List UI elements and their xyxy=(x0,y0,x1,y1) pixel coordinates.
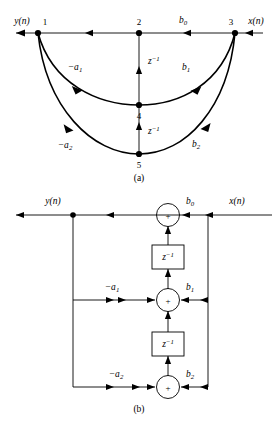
bd-arrow-chain-mid-upper xyxy=(165,269,171,277)
sfg-delay-lower-label: z−1 xyxy=(147,125,160,136)
adder-middle-plus: + xyxy=(165,296,170,306)
sfg-gain-a2-sub: 2 xyxy=(69,144,73,151)
sfg-delay-lower-exp: −1 xyxy=(152,125,160,132)
sfg-node-5-label: 5 xyxy=(137,160,142,170)
sfg-gain-a2-base: −a xyxy=(58,140,69,150)
figure-svg: 1 2 3 4 5 y(n) x(n) b0 −a1 −a2 b1 xyxy=(0,0,279,426)
bd-arrow-a1-into-adder xyxy=(147,297,155,303)
bd-arrow-b1-mid xyxy=(200,297,208,303)
bd-gain-b0-sub: 0 xyxy=(191,200,195,207)
caption-b: (b) xyxy=(133,404,144,415)
figure-container: 1 2 3 4 5 y(n) x(n) b0 −a1 −a2 b1 xyxy=(0,0,279,426)
sfg-input-label: x(n) xyxy=(247,16,263,27)
delay-block-2-label: z−1 xyxy=(161,338,174,349)
bd-gain-b1-label: b1 xyxy=(186,282,194,293)
bd-arrow-chain-mid-lower xyxy=(165,311,171,319)
sfg-gain-b2-label: b2 xyxy=(192,139,201,150)
bd-arrow-b1-into-adder xyxy=(181,297,189,303)
sfg-curve-a1 xyxy=(38,33,139,105)
bd-arrow-a2-right xyxy=(132,384,140,390)
sfg-node-4-dot xyxy=(136,102,142,108)
sfg-node-1-label: 1 xyxy=(43,17,48,27)
sfg-delay-upper-label: z−1 xyxy=(147,55,160,66)
bd-gain-b2-sub: 2 xyxy=(191,373,195,380)
bd-arrow-b0-mid xyxy=(205,212,213,218)
bd-gain-b2-label: b2 xyxy=(186,369,195,380)
adder-bottom-plus: + xyxy=(165,383,170,393)
delay-block-1-exp: −1 xyxy=(166,251,174,258)
sfg-arrow-node2-to-node1 xyxy=(85,30,93,36)
sfg-node-3-label: 3 xyxy=(229,17,234,27)
sfg-node-3-dot xyxy=(232,30,238,36)
sfg-node-2-dot xyxy=(136,30,142,36)
sfg-gain-b1-label: b1 xyxy=(182,62,190,73)
bd-output-label: y(n) xyxy=(44,196,60,207)
bd-arrow-b2-into-adder xyxy=(181,384,189,390)
sfg-arrow-input-right xyxy=(245,30,253,36)
sfg-gain-a1-sub: 1 xyxy=(79,66,82,73)
delay-block-1-label: z−1 xyxy=(161,251,174,262)
sfg-gain-b1-sub: 1 xyxy=(187,66,190,73)
bd-arrow-b2-mid xyxy=(200,384,208,390)
sfg-arrow-output-left xyxy=(16,30,25,37)
bd-input-label: x(n) xyxy=(228,196,244,207)
sfg-node-4-label: 4 xyxy=(137,111,142,121)
sfg-arrow-b1 xyxy=(191,86,202,94)
adder-top-plus: + xyxy=(165,211,170,221)
bd-arrow-chain-upper xyxy=(165,226,171,234)
sfg-arrow-delay-upper xyxy=(136,66,142,74)
bd-gain-a1-label: −a1 xyxy=(105,282,120,293)
bd-gain-a1-sub: 1 xyxy=(116,286,119,293)
bd-gain-a2-label: −a2 xyxy=(109,369,124,380)
sfg-arrow-b0 xyxy=(183,30,191,36)
bd-arrow-b0-into-adder xyxy=(182,212,190,218)
bd-arrow-a1-right xyxy=(118,297,126,303)
sfg-gain-a1-base: −a xyxy=(68,62,79,72)
signal-flow-graph-panel: 1 2 3 4 5 y(n) x(n) b0 −a1 −a2 b1 xyxy=(13,15,263,184)
sfg-gain-a1-label: −a1 xyxy=(68,62,83,73)
sfg-gain-b0-label: b0 xyxy=(179,15,188,26)
bd-gain-b0-label: b0 xyxy=(186,196,195,207)
sfg-node-1-dot xyxy=(35,30,41,36)
bd-gain-a2-sub: 2 xyxy=(120,373,124,380)
sfg-output-label: y(n) xyxy=(13,16,29,27)
bd-arrow-output-branch xyxy=(106,212,114,218)
bd-arrow-a2-left xyxy=(106,384,114,390)
bd-arrow-a2-into-adder xyxy=(147,384,155,390)
bd-arrow-chain-lower xyxy=(165,356,171,364)
sfg-arrow-delay-lower xyxy=(136,122,142,130)
sfg-gain-b2-sub: 2 xyxy=(197,143,201,150)
bd-gain-b1-sub: 1 xyxy=(191,286,194,293)
sfg-gain-b0-sub: 0 xyxy=(184,19,188,26)
caption-a: (a) xyxy=(134,173,145,184)
sfg-arrow-b2 xyxy=(201,123,211,132)
sfg-gain-a2-label: −a2 xyxy=(58,140,73,151)
bd-gain-a2-base: −a xyxy=(109,369,120,379)
sfg-delay-upper-exp: −1 xyxy=(152,55,160,62)
sfg-arrow-a2 xyxy=(64,124,74,133)
bd-arrow-output xyxy=(16,212,24,218)
delay-block-2-exp: −1 xyxy=(166,338,174,345)
bd-gain-a1-base: −a xyxy=(105,282,116,292)
bd-arrow-a1-left xyxy=(106,297,114,303)
sfg-node-2-label: 2 xyxy=(137,17,142,27)
sfg-node-5-dot xyxy=(136,151,142,157)
block-diagram-panel: z−1 z−1 + + + y(n) x(n) b0 −a1 b xyxy=(16,196,272,415)
